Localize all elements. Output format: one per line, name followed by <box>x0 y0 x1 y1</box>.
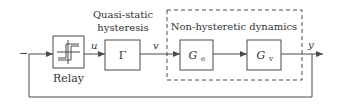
gamma-caption-line1: Quasi-static <box>93 9 154 20</box>
ge-subscript: e <box>201 55 205 63</box>
relay-label: Relay <box>53 72 85 85</box>
relay-block <box>53 36 84 68</box>
ge-symbol: G <box>189 49 198 62</box>
minus-sign: − <box>19 47 28 60</box>
gv-symbol: G <box>257 49 266 62</box>
gv-subscript: v <box>268 55 273 63</box>
group-label: Non-hysteretic dynamics <box>171 21 297 32</box>
gamma-symbol: Γ <box>119 49 127 62</box>
signal-u: u <box>91 40 97 51</box>
block-diagram: − Relay u Quasi-static hysteresis Γ v No… <box>0 0 339 104</box>
signal-v: v <box>153 40 159 51</box>
gamma-caption-line2: hysteresis <box>97 22 148 33</box>
signal-y: y <box>307 39 314 50</box>
